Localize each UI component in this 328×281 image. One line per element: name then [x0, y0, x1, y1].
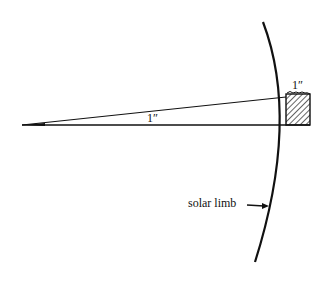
angle-label: 1″: [147, 111, 158, 125]
box-label: 1″: [292, 78, 303, 92]
solar-limb-label: solar limb: [188, 196, 236, 210]
diagram-canvas: 1″ 1″ solar limb: [0, 0, 328, 281]
limb-arrow-icon: [262, 203, 269, 209]
solar-limb-arc: [255, 22, 280, 262]
limb-arrow-shaft: [247, 205, 264, 206]
hatched-box: [286, 94, 310, 125]
